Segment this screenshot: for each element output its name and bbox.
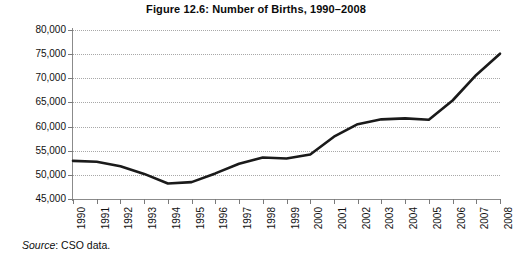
source-label: Source: [22, 239, 55, 251]
x-axis-tick-label: 2005: [433, 207, 443, 229]
y-axis-tick: [68, 78, 73, 79]
x-axis-tick-label: 1998: [267, 207, 277, 229]
gridline: [73, 54, 500, 55]
x-axis-tick: [476, 199, 477, 204]
gridline: [73, 175, 500, 176]
x-axis-tick-label: 2008: [504, 207, 514, 229]
plot-area: [73, 30, 500, 199]
y-axis-tick: [68, 127, 73, 128]
x-axis-tick: [405, 199, 406, 204]
x-axis-tick: [287, 199, 288, 204]
y-axis-tick-label: 50,000: [4, 170, 66, 180]
x-axis-tick: [453, 199, 454, 204]
gridline: [73, 30, 500, 31]
x-axis-tick: [168, 199, 169, 204]
x-axis-tick-label: 2000: [314, 207, 324, 229]
y-axis-tick: [68, 54, 73, 55]
y-axis-tick-label: 75,000: [4, 49, 66, 59]
x-axis-tick-label: 1999: [291, 207, 301, 229]
x-axis-tick-label: 2002: [362, 207, 372, 229]
x-axis-tick: [334, 199, 335, 204]
x-axis-tick-label: 1990: [77, 207, 87, 229]
y-axis-tick: [68, 102, 73, 103]
x-axis-tick-label: 2003: [385, 207, 395, 229]
x-axis-tick-label: 2001: [338, 207, 348, 229]
chart-title: Figure 12.6: Number of Births, 1990–2008: [0, 3, 512, 15]
x-axis-tick: [310, 199, 311, 204]
x-axis-tick: [192, 199, 193, 204]
x-axis-tick-label: 1992: [124, 207, 134, 229]
gridline: [73, 127, 500, 128]
y-axis-tick-label: 45,000: [4, 194, 66, 204]
x-axis-tick-label: 1991: [101, 207, 111, 229]
x-axis-tick: [120, 199, 121, 204]
x-axis-tick: [144, 199, 145, 204]
x-axis-tick: [97, 199, 98, 204]
x-axis-tick-label: 1995: [196, 207, 206, 229]
x-axis-tick: [263, 199, 264, 204]
y-axis-tick-label: 65,000: [4, 97, 66, 107]
x-axis-tick: [381, 199, 382, 204]
gridline: [73, 78, 500, 79]
x-axis-tick-label: 1994: [172, 207, 182, 229]
x-axis-tick: [215, 199, 216, 204]
gridline: [73, 151, 500, 152]
x-axis-tick-label: 1997: [243, 207, 253, 229]
x-axis-tick-label: 2007: [480, 207, 490, 229]
x-axis-tick-label: 2006: [457, 207, 467, 229]
x-axis-tick: [500, 199, 501, 204]
y-axis-tick: [68, 30, 73, 31]
y-axis-tick-label: 80,000: [4, 25, 66, 35]
x-axis-tick-label: 2004: [409, 207, 419, 229]
gridline: [73, 102, 500, 103]
x-axis-tick: [429, 199, 430, 204]
y-axis-tick: [68, 175, 73, 176]
source-text: : CSO data.: [55, 239, 110, 251]
y-axis-tick: [68, 199, 73, 200]
x-axis-tick-label: 1993: [148, 207, 158, 229]
y-axis-tick-label: 70,000: [4, 73, 66, 83]
x-axis-tick: [239, 199, 240, 204]
source-note: Source: CSO data.: [22, 239, 110, 251]
y-axis-tick-label: 60,000: [4, 122, 66, 132]
y-axis-tick-label: 55,000: [4, 146, 66, 156]
x-axis-tick: [358, 199, 359, 204]
y-axis-tick: [68, 151, 73, 152]
x-axis-tick: [73, 199, 74, 204]
x-axis-tick-label: 1996: [219, 207, 229, 229]
y-axis-labels: 80,00075,00070,00065,00060,00055,00050,0…: [0, 0, 66, 255]
